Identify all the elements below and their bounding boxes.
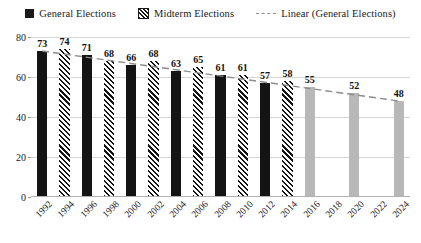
data-label-2006: 65 (193, 54, 203, 65)
y-axis-tick-mark (28, 117, 31, 118)
data-label-1992: 73 (37, 38, 47, 49)
data-label-1994: 74 (59, 36, 69, 47)
x-axis-tick-1998: 1998 (101, 199, 122, 220)
y-axis-tick-mark (28, 37, 31, 38)
data-label-1996: 71 (82, 42, 92, 53)
x-axis-tick-1996: 1996 (78, 199, 99, 220)
x-axis-tick-2022: 2022 (368, 199, 389, 220)
y-axis-tick-label: 20 (16, 152, 26, 163)
x-axis-baseline (31, 196, 410, 197)
y-axis-tick-label: 40 (16, 112, 26, 123)
bar-2000 (126, 65, 136, 197)
data-label-2002: 68 (149, 48, 159, 59)
data-label-2016: 55 (305, 74, 315, 85)
y-axis-tick-label: 80 (16, 32, 26, 43)
data-label-2008: 61 (216, 62, 226, 73)
x-axis-tick-2014: 2014 (279, 199, 300, 220)
dashed-line-icon (256, 13, 276, 14)
x-axis-tick-2018: 2018 (324, 199, 345, 220)
x-axis-tick-2002: 2002 (145, 199, 166, 220)
bar-2004 (171, 71, 181, 197)
bar-1998 (104, 61, 114, 197)
chart-legend: General Elections Midterm Elections Line… (0, 4, 421, 22)
y-axis-tick-label: 0 (21, 192, 26, 203)
x-axis-tick-2010: 2010 (234, 199, 255, 220)
solid-square-icon (25, 9, 34, 18)
x-axis-tick-2016: 2016 (301, 199, 322, 220)
data-label-2012: 57 (260, 70, 270, 81)
bar-2012 (260, 83, 270, 197)
x-axis-tick-1992: 1992 (34, 199, 55, 220)
bar-2010 (238, 75, 248, 197)
x-axis-tick-2020: 2020 (346, 199, 367, 220)
y-axis-tick-mark (28, 77, 31, 78)
bar-2016 (305, 87, 315, 197)
x-axis-tick-2004: 2004 (167, 199, 188, 220)
data-label-2000: 66 (126, 52, 136, 63)
legend-item-linear-trend: Linear (General Elections) (256, 8, 396, 19)
bar-2008 (215, 75, 225, 197)
bar-1994 (59, 49, 69, 197)
data-label-2010: 61 (238, 62, 248, 73)
y-axis-tick-mark (28, 157, 31, 158)
x-axis-tick-2012: 2012 (257, 199, 278, 220)
bar-2024 (394, 101, 404, 197)
y-axis-tick-mark (28, 197, 31, 198)
legend-label-linear-trend: Linear (General Elections) (281, 8, 396, 19)
legend-label-midterm-elections: Midterm Elections (154, 8, 234, 19)
data-label-2014: 58 (282, 68, 292, 79)
bar-2020 (349, 93, 359, 197)
x-axis-tick-1994: 1994 (56, 199, 77, 220)
gridline (31, 37, 410, 38)
bar-2006 (193, 67, 203, 197)
bar-1996 (82, 55, 92, 197)
legend-item-general-elections: General Elections (25, 8, 116, 19)
data-label-2024: 48 (394, 88, 404, 99)
bar-2002 (148, 61, 158, 197)
x-axis-tick-2024: 2024 (390, 199, 411, 220)
chart-plot-area: 020406080 737471686668636561615758555248… (31, 37, 410, 197)
data-label-2020: 52 (349, 80, 359, 91)
bar-2014 (282, 81, 292, 197)
hatched-square-icon (138, 8, 149, 19)
x-axis-tick-2000: 2000 (123, 199, 144, 220)
x-axis-tick-2008: 2008 (212, 199, 233, 220)
data-label-2004: 63 (171, 58, 181, 69)
x-axis-tick-2006: 2006 (190, 199, 211, 220)
legend-label-general-elections: General Elections (39, 8, 116, 19)
data-label-1998: 68 (104, 48, 114, 59)
y-axis-tick-label: 60 (16, 72, 26, 83)
legend-item-midterm-elections: Midterm Elections (138, 8, 234, 19)
bar-1992 (37, 51, 47, 197)
